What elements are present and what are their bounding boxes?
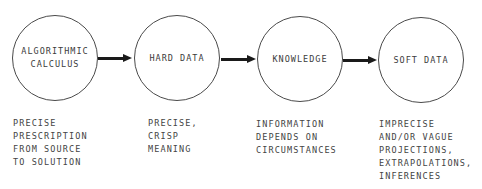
description-knowledge: INFORMATION DEPENDS ON CIRCUMSTANCES [256,118,337,157]
description-line: PRECISE, [148,117,198,130]
description-hard-data: PRECISE, CRISP MEANING [148,117,198,156]
description-line: INFORMATION [256,118,337,131]
description-line: INFERENCES [379,170,472,183]
node-hard-data: HARD DATA [134,15,220,101]
description-line: PRECISE [13,117,88,130]
description-line: MEANING [148,143,198,156]
description-line: FROM SOURCE [13,143,88,156]
node-label: HARD DATA [149,52,204,65]
description-algorithmic-calculus: PRECISE PRESCRIPTION FROM SOURCE TO SOLU… [13,117,88,169]
node-soft-data: SOFT DATA [378,17,464,103]
description-line: EXTRAPOLATIONS, [379,157,472,170]
node-label: SOFT DATA [393,54,448,67]
node-label: ALGORITHMIC CALCULUS [21,45,88,71]
description-line: AND/OR VAGUE [379,131,472,144]
description-line: CRISP [148,130,198,143]
description-line: IMPRECISE [379,118,472,131]
node-knowledge: KNOWLEDGE [257,16,343,102]
flow-diagram: ALGORITHMIC CALCULUS HARD DATA KNOWLEDGE… [0,0,482,189]
node-algorithmic-calculus: ALGORITHMIC CALCULUS [12,15,98,101]
description-line: PRESCRIPTION [13,130,88,143]
description-soft-data: IMPRECISE AND/OR VAGUE PROJECTIONS, EXTR… [379,118,472,183]
description-line: CIRCUMSTANCES [256,144,337,157]
description-line: TO SOLUTION [13,156,88,169]
description-line: DEPENDS ON [256,131,337,144]
description-line: PROJECTIONS, [379,144,472,157]
node-label: KNOWLEDGE [272,53,327,66]
